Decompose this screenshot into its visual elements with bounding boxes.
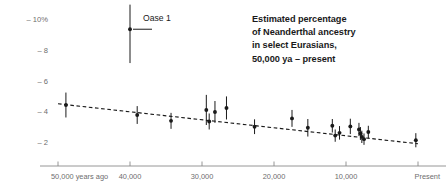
y-axis-tick-label: – 8 xyxy=(0,46,48,55)
y-axis-tick-label: – 6 xyxy=(0,77,48,86)
data-point xyxy=(414,133,418,147)
data-point xyxy=(330,119,334,133)
chart-title-line-4: 50,000 ya – present xyxy=(252,53,432,66)
data-point xyxy=(207,113,211,129)
x-axis-tick-label: 40,000 xyxy=(112,172,148,181)
x-axis-tick-label: Present xyxy=(396,172,440,181)
data-point xyxy=(64,93,68,118)
data-point xyxy=(225,96,229,119)
data-point xyxy=(253,119,257,134)
chart-figure: Estimated percentage of Neanderthal ance… xyxy=(0,0,446,190)
data-point xyxy=(348,119,352,134)
x-axis-tick-label: 30,000 xyxy=(184,172,220,181)
chart-title-line-1: Estimated percentage xyxy=(252,13,432,26)
data-point xyxy=(333,129,337,141)
x-axis-tick-label: 10,000 xyxy=(328,172,364,181)
legend-item-label: Oase 1 xyxy=(143,13,171,23)
data-point xyxy=(135,106,139,124)
x-axis xyxy=(40,162,446,167)
chart-title-line-3: in select Eurasians, xyxy=(252,39,432,52)
x-axis-tick-label: 20,000 xyxy=(256,172,292,181)
data-point xyxy=(169,113,173,129)
data-point xyxy=(306,119,310,137)
data-points-layer xyxy=(64,93,418,148)
x-axis-tick-label: 50,000 years ago xyxy=(51,172,108,181)
chart-title-line-2: of Neanderthal ancestry xyxy=(252,26,432,39)
data-point xyxy=(366,126,370,138)
y-axis-tick-label: – 10% xyxy=(0,15,48,24)
data-point xyxy=(213,101,217,123)
data-point xyxy=(338,126,342,140)
y-axis-tick-label: – 4 xyxy=(0,107,48,116)
y-axis-tick-label: – 2 xyxy=(0,138,48,147)
chart-title: Estimated percentage of Neanderthal ance… xyxy=(252,13,432,66)
data-point xyxy=(290,110,294,127)
